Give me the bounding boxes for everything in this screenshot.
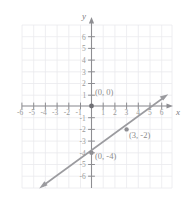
x-tick-label-1: 1 — [101, 109, 105, 117]
x-tick-label--3: -3 — [52, 109, 58, 117]
x-tick-label-2: 2 — [113, 109, 117, 117]
x-tick-label--4: -4 — [40, 109, 46, 117]
x-tick-label-3: 3 — [125, 109, 129, 117]
x-tick-label--2: -2 — [64, 109, 70, 117]
x-tick-label-4: 4 — [136, 109, 140, 117]
y-tick-label-5: 5 — [82, 45, 86, 53]
origin-point-label: (0, 0) — [95, 88, 113, 97]
point-marker-origin — [89, 104, 94, 109]
y-tick-label--1: -1 — [80, 115, 86, 123]
point-3-neg2-label: (3, -2) — [129, 131, 150, 140]
y-tick-label--3: -3 — [80, 138, 86, 146]
coordinate-plane-svg — [0, 0, 192, 201]
y-tick-label-1: 1 — [83, 92, 87, 100]
point-0-neg4-label: (0, -4) — [95, 152, 116, 161]
point-marker-0-neg4 — [89, 151, 93, 155]
x-tick-label-5: 5 — [148, 109, 152, 117]
x-tick-label--5: -5 — [29, 109, 35, 117]
y-tick-label-4: 4 — [82, 57, 86, 65]
coordinate-plane-figure: x y -6 -5 -4 -3 -2 -1 1 2 3 4 5 6 6 5 4 … — [0, 0, 192, 201]
x-axis-label: x — [176, 108, 180, 117]
y-tick-label--5: -5 — [80, 161, 86, 169]
y-tick-label-6: 6 — [82, 34, 86, 42]
y-axis-label: y — [82, 12, 86, 21]
x-tick-label--6: -6 — [17, 109, 23, 117]
y-tick-label--6: -6 — [80, 173, 86, 181]
y-tick-label--4: -4 — [80, 150, 86, 158]
x-tick-label-6: 6 — [160, 109, 164, 117]
y-tick-label-3: 3 — [82, 69, 86, 77]
y-tick-label-2: 2 — [82, 80, 86, 88]
y-tick-label--2: -2 — [80, 126, 86, 134]
